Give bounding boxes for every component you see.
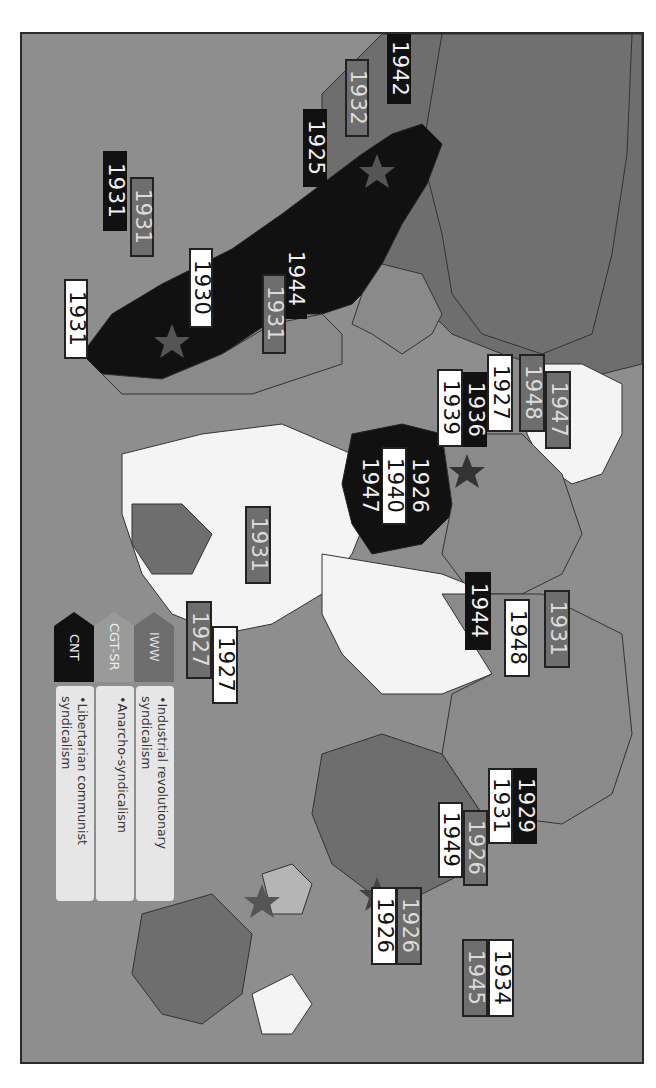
year-label-1927-europe: 1927	[487, 354, 513, 432]
year-label-1944-europe: 1944	[465, 572, 491, 650]
year-label-1940: 1940	[381, 447, 407, 525]
year-label-1948-grey: 1948	[519, 354, 545, 432]
year-label-1931-grey: 1931	[130, 177, 154, 257]
legend-description-cgt-sr: Anarcho-syndicalism	[115, 703, 130, 833]
legend-item-iww: • Industrial revolutionary syndicalism	[136, 686, 174, 901]
year-label-1948-white: 1948	[504, 599, 530, 677]
year-label-1927-white: 1927	[212, 626, 238, 704]
year-label-1931-white: 1931	[64, 279, 88, 359]
legend-description-iww: Industrial revolutionary syndicalism	[139, 696, 170, 849]
year-label-1931-europe: 1931	[544, 590, 570, 668]
year-label-1926-europe: 1926	[406, 447, 432, 525]
year-label-1932: 1932	[345, 59, 369, 137]
legend-chevron-cnt: CNT	[54, 612, 94, 682]
year-label-1930: 1930	[189, 248, 213, 328]
legend-item-cnt: • Libertarian communist syndicalism	[56, 686, 94, 901]
year-label-1931-asia: 1931	[488, 768, 513, 844]
legend-chevron-iww: IWW	[134, 612, 174, 682]
year-label-1931-central: 1931	[262, 274, 286, 354]
year-label-1936: 1936	[463, 372, 487, 447]
legend-chevron-cgt-sr: CGT-SR	[94, 612, 134, 682]
year-label-1939: 1939	[437, 369, 463, 447]
year-label-1947-black: 1947	[356, 447, 382, 525]
year-label-1929: 1929	[513, 768, 537, 844]
year-label-1926-white: 1926	[371, 887, 397, 965]
year-label-1934: 1934	[488, 939, 514, 1017]
year-label-1925: 1925	[303, 109, 327, 187]
year-label-1931-africa: 1931	[245, 506, 271, 584]
map-frame: 1942 1932 1925 1931 1931 1931 1930 1944 …	[20, 32, 644, 1064]
year-label-1931-black: 1931	[103, 151, 127, 231]
year-label-1942: 1942	[387, 34, 411, 104]
legend-item-cgt-sr: • Anarcho-syndicalism	[96, 686, 134, 901]
year-label-1927-grey: 1927	[186, 601, 212, 679]
year-label-1926-china: 1926	[463, 810, 488, 886]
year-label-1926-japan: 1926	[396, 887, 422, 965]
legend-description-cnt: Libertarian communist syndicalism	[59, 696, 90, 845]
year-label-1944-americas: 1944	[283, 239, 307, 319]
year-label-1947-grey: 1947	[545, 371, 571, 449]
year-label-1949: 1949	[438, 802, 463, 878]
year-label-1945: 1945	[462, 939, 488, 1017]
